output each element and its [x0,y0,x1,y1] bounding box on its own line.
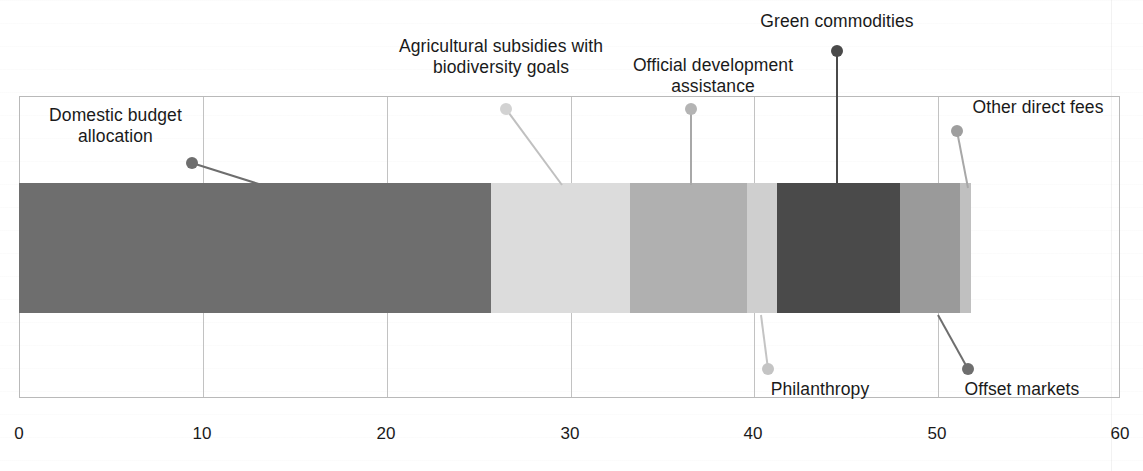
callout-label-other-direct-fees: Other direct fees [955,97,1121,118]
bar-segment-green-commodities[interactable] [777,183,900,313]
callout-label-offset-markets: Offset markets [947,379,1097,400]
callout-dot-philanthropy[interactable] [762,363,774,375]
callout-dot-official-development-assistance[interactable] [685,103,697,115]
bar-segment-philanthropy[interactable] [747,183,776,313]
stacked-bar-series [19,183,971,313]
callout-dot-domestic-budget-allocation[interactable] [186,157,198,169]
bar-segment-official-development-assistance[interactable] [630,183,747,313]
callout-label-green-commodities: Green commodities [734,11,940,32]
x-tick-20: 20 [377,424,396,444]
bar-segment-agricultural-subsidies-with-biodiversity-goals[interactable] [491,183,630,313]
stacked-bar-chart: Domestic budget allocationAgricultural s… [0,0,1143,471]
x-tick-30: 30 [561,424,580,444]
callout-label-official-development-assistance: Official development assistance [608,55,818,96]
x-tick-60: 60 [1111,424,1130,444]
callout-label-philanthropy: Philanthropy [757,379,883,400]
bar-segment-domestic-budget-allocation[interactable] [19,183,491,313]
bar-segment-other-direct-fees[interactable] [960,183,971,313]
x-tick-40: 40 [744,424,763,444]
x-tick-10: 10 [193,424,212,444]
callout-dot-agricultural-subsidies[interactable] [500,103,512,115]
callout-dot-other-direct-fees[interactable] [951,125,963,137]
x-tick-0: 0 [14,424,23,444]
callout-dot-offset-markets[interactable] [962,363,974,375]
x-tick-50: 50 [928,424,947,444]
bar-segment-offset-markets[interactable] [900,183,961,313]
callout-dot-green-commodities[interactable] [831,45,843,57]
callout-label-domestic-budget-allocation: Domestic budget allocation [28,105,203,146]
